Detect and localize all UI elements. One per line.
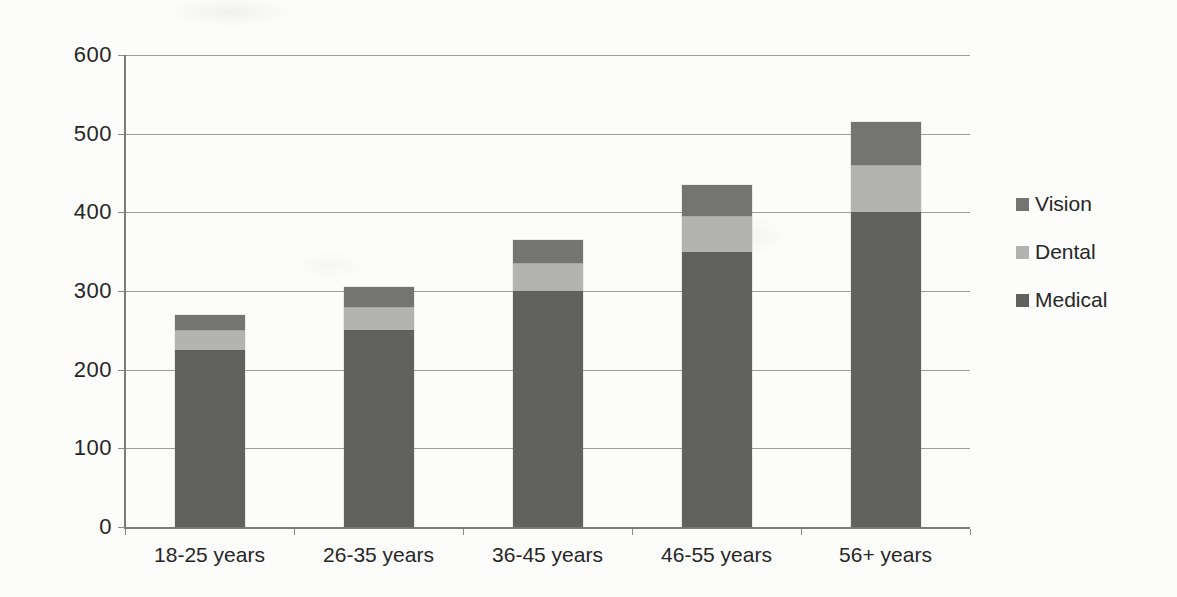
bar-segment-medical [175,350,245,527]
x-axis-tick [970,529,971,535]
x-axis-tick [801,529,802,535]
bar-segment-medical [513,291,583,527]
legend-label: Medical [1035,288,1107,312]
x-axis-tick [632,529,633,535]
legend-item-dental: Dental [1016,241,1107,263]
y-tick-label: 200 [42,357,112,383]
bar-segment-dental [513,263,583,291]
y-tick-label: 500 [42,121,112,147]
gridline [125,134,970,135]
y-tick-label: 600 [42,42,112,68]
x-axis-category-label: 56+ years [801,543,970,567]
bar-segment-vision [344,287,414,307]
y-tick-label: 100 [42,435,112,461]
x-axis-tick [463,529,464,535]
x-axis-category-label: 26-35 years [294,543,463,567]
bar-segment-vision [513,240,583,264]
x-axis-category-label: 18-25 years [125,543,294,567]
x-axis-tick [294,529,295,535]
x-axis-line [124,527,970,529]
bar-segment-dental [344,307,414,331]
legend-label: Dental [1035,240,1096,264]
legend-item-vision: Vision [1016,193,1107,215]
gridline [125,212,970,213]
y-tick-label: 300 [42,278,112,304]
bar-segment-medical [851,212,921,527]
bar-segment-dental [682,216,752,251]
legend-swatch-medical [1016,294,1029,307]
legend: VisionDentalMedical [1016,193,1107,311]
legend-label: Vision [1035,192,1092,216]
bar-segment-vision [175,315,245,331]
bar-segment-medical [344,330,414,527]
gridline [125,55,970,56]
legend-swatch-dental [1016,246,1029,259]
y-tick-label: 0 [42,514,112,540]
bar-segment-dental [175,330,245,350]
y-tick-label: 400 [42,199,112,225]
bar-segment-medical [682,252,752,527]
legend-swatch-vision [1016,198,1029,211]
x-axis-category-label: 46-55 years [632,543,801,567]
scanned-chart-page: 010020030040050060018-25 years26-35 year… [0,0,1177,597]
bar-segment-vision [851,122,921,165]
bar-segment-vision [682,185,752,216]
y-axis-line [124,55,126,527]
legend-item-medical: Medical [1016,289,1107,311]
x-axis-tick [125,529,126,535]
x-axis-category-label: 36-45 years [463,543,632,567]
bar-segment-dental [851,165,921,212]
stacked-bar-chart: 010020030040050060018-25 years26-35 year… [0,0,1177,597]
